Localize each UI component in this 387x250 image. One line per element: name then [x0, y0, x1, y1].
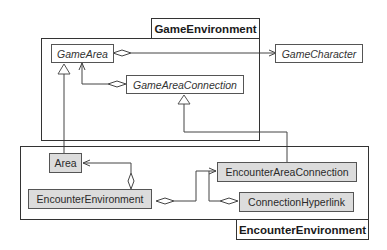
class-encounter-environment[interactable]: EncounterEnvironment	[28, 189, 152, 209]
package-label-game-environment: GameEnvironment	[151, 18, 260, 39]
class-connection-hyperlink[interactable]: ConnectionHyperlink	[239, 192, 354, 212]
class-game-area[interactable]: GameArea	[51, 44, 114, 63]
class-area[interactable]: Area	[49, 153, 82, 173]
class-game-area-connection[interactable]: GameAreaConnection	[126, 75, 244, 94]
package-label-encounter-environment: EncounterEnvironment	[236, 219, 369, 240]
class-game-character[interactable]: GameCharacter	[275, 44, 363, 63]
class-encounter-area-connection[interactable]: EncounterAreaConnection	[217, 162, 357, 182]
